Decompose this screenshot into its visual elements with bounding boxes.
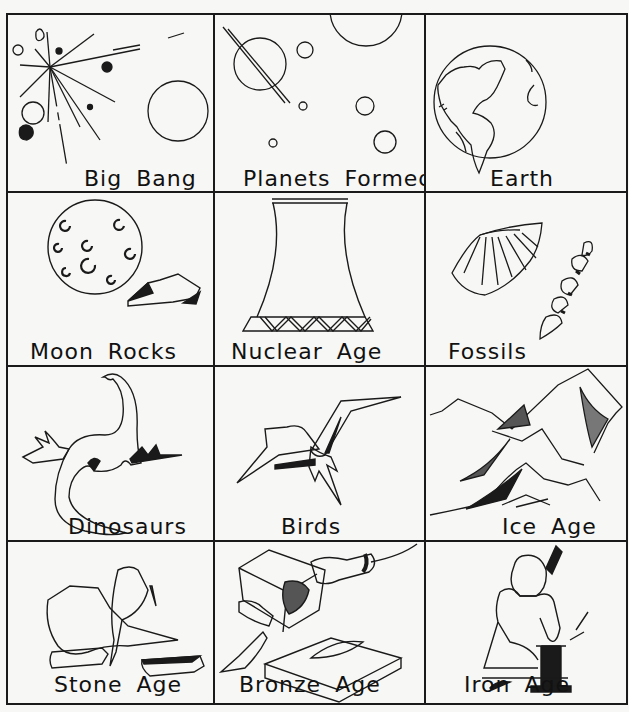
cell-label: Bronze Age [239, 672, 381, 697]
cell-label: Planets Formed [243, 166, 424, 191]
cell-label: Moon Rocks [30, 339, 177, 364]
cell-label: Stone Age [54, 672, 182, 697]
earth-globe-icon [426, 15, 628, 191]
cell-label: Dinosaurs [68, 514, 187, 539]
cell-big-bang: Big Bang [8, 15, 213, 191]
cell-fossils: Fossils [426, 193, 628, 365]
big-bang-icon [8, 15, 213, 191]
cell-label: Birds [281, 514, 341, 539]
cell-label: Nuclear Age [231, 339, 382, 364]
planets-icon [215, 15, 424, 191]
cell-planets-formed: Planets Formed [215, 15, 424, 191]
cell-ice-age: Ice Age [426, 367, 628, 540]
cell-bronze-age: Bronze Age [215, 542, 424, 705]
cell-birds: Birds [215, 367, 424, 540]
picture-grid: Big Bang Planets Formed Earth [6, 13, 628, 705]
cell-label: Ice Age [502, 514, 597, 539]
cell-nuclear-age: Nuclear Age [215, 193, 424, 365]
cell-earth: Earth [426, 15, 628, 191]
cell-label: Big Bang [84, 166, 197, 191]
cell-stone-age: Stone Age [8, 542, 213, 705]
cell-label: Iron Age [464, 672, 570, 697]
cell-iron-age: Iron Age [426, 542, 628, 705]
cell-label: Fossils [448, 339, 527, 364]
cell-label: Earth [490, 166, 554, 191]
cell-moon-rocks: Moon Rocks [8, 193, 213, 365]
cell-dinosaurs: Dinosaurs [8, 367, 213, 540]
